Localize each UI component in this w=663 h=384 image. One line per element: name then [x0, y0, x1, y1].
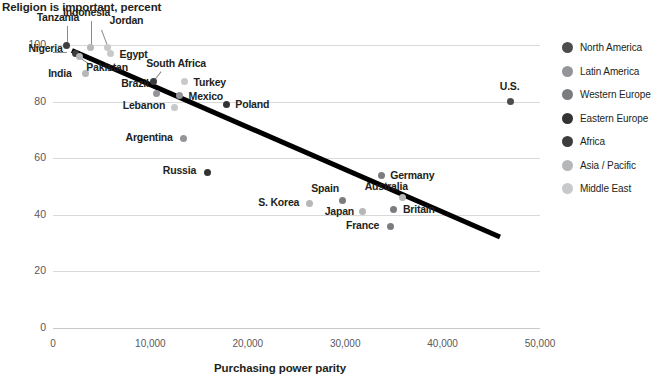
data-point-spain[interactable]	[339, 197, 346, 204]
data-label-russia: Russia	[163, 164, 196, 176]
legend: North AmericaLatin AmericaWestern Europe…	[562, 36, 662, 201]
legend-item-western-europe[interactable]: Western Europe	[562, 83, 662, 107]
gridline-y-60	[53, 158, 540, 159]
data-point-argentina[interactable]	[180, 135, 187, 142]
data-point-germany[interactable]	[378, 172, 385, 179]
gridline-y-40	[53, 215, 540, 216]
data-point-france[interactable]	[387, 223, 394, 230]
data-label-india: India	[48, 67, 72, 79]
legend-swatch-icon	[562, 136, 573, 147]
x-tick-label-10000: 10,000	[115, 338, 185, 349]
data-label-egypt: Egypt	[119, 48, 147, 60]
data-label-mexico: Mexico	[189, 90, 223, 102]
data-point-australia[interactable]	[399, 194, 406, 201]
data-point-lebanon[interactable]	[171, 104, 178, 111]
legend-item-eastern-europe[interactable]: Eastern Europe	[562, 107, 662, 131]
y-tick-label-40: 40	[6, 208, 46, 220]
data-label-pakistan: Pakistan	[86, 61, 128, 73]
data-point-india[interactable]	[82, 70, 89, 77]
data-point-russia[interactable]	[204, 169, 211, 176]
data-label-australia: Australia	[365, 180, 408, 192]
legend-label: North America	[580, 42, 642, 53]
data-point-turkey[interactable]	[181, 78, 188, 85]
legend-item-asia-pacific[interactable]: Asia / Pacific	[562, 154, 662, 178]
gridline-y-20	[53, 271, 540, 272]
data-point-pakistan[interactable]	[76, 53, 83, 60]
data-point-s-korea[interactable]	[306, 200, 313, 207]
legend-label: Western Europe	[580, 89, 651, 100]
x-tick-label-40000: 40,000	[408, 338, 478, 349]
gridline-y-0	[53, 328, 540, 329]
x-tick-label-30000: 30,000	[310, 338, 380, 349]
data-label-japan: Japan	[325, 205, 354, 217]
legend-swatch-icon	[562, 113, 573, 124]
legend-swatch-icon	[562, 160, 573, 171]
y-tick-label-60: 60	[6, 151, 46, 163]
data-point-u-s-[interactable]	[507, 98, 514, 105]
data-label-spain: Spain	[311, 182, 339, 194]
y-tick-label-80: 80	[6, 95, 46, 107]
data-label-france: France	[346, 219, 379, 231]
x-tick-label-0: 0	[18, 338, 88, 349]
data-point-brazil[interactable]	[153, 90, 160, 97]
legend-label: Latin America	[580, 66, 639, 77]
data-label-jordan: Jordan	[110, 14, 144, 26]
data-point-poland[interactable]	[223, 101, 230, 108]
legend-item-middle-east[interactable]: Middle East	[562, 177, 662, 201]
x-tick-label-20000: 20,000	[213, 338, 283, 349]
data-label-indonesia: Indonesia	[63, 6, 110, 18]
data-label-britain: Britain	[403, 203, 435, 215]
data-label-argentina: Argentina	[126, 131, 173, 143]
gridline-y-100	[53, 45, 540, 46]
data-label-brazil: Brazil	[121, 77, 148, 89]
legend-swatch-icon	[562, 66, 573, 77]
data-point-britain[interactable]	[390, 206, 397, 213]
scatter-chart: Religion is important, percent 020406080…	[0, 0, 663, 384]
data-label-s-korea: S. Korea	[258, 196, 299, 208]
legend-item-north-america[interactable]: North America	[562, 36, 662, 60]
legend-swatch-icon	[562, 89, 573, 100]
data-label-turkey: Turkey	[193, 76, 225, 88]
data-point-tanzania[interactable]	[63, 42, 70, 49]
data-label-nigeria: Nigeria	[28, 42, 62, 54]
data-label-south-africa: South Africa	[146, 57, 206, 69]
y-tick-label-0: 0	[6, 321, 46, 333]
legend-swatch-icon	[562, 183, 573, 194]
data-label-poland: Poland	[235, 98, 269, 110]
legend-label: Eastern Europe	[580, 113, 648, 124]
y-tick-label-20: 20	[6, 264, 46, 276]
legend-label: Africa	[580, 136, 605, 147]
legend-label: Asia / Pacific	[580, 160, 636, 171]
data-point-indonesia[interactable]	[87, 44, 94, 51]
legend-label: Middle East	[580, 183, 631, 194]
legend-swatch-icon	[562, 42, 573, 53]
data-label-u-s-: U.S.	[500, 80, 520, 92]
leader-line-indonesia	[91, 21, 92, 47]
x-axis-title: Purchasing power parity	[0, 362, 560, 374]
legend-item-africa[interactable]: Africa	[562, 130, 662, 154]
data-label-lebanon: Lebanon	[123, 99, 165, 111]
legend-item-latin-america[interactable]: Latin America	[562, 60, 662, 84]
data-point-egypt[interactable]	[107, 50, 114, 57]
x-tick-label-50000: 50,000	[505, 338, 575, 349]
